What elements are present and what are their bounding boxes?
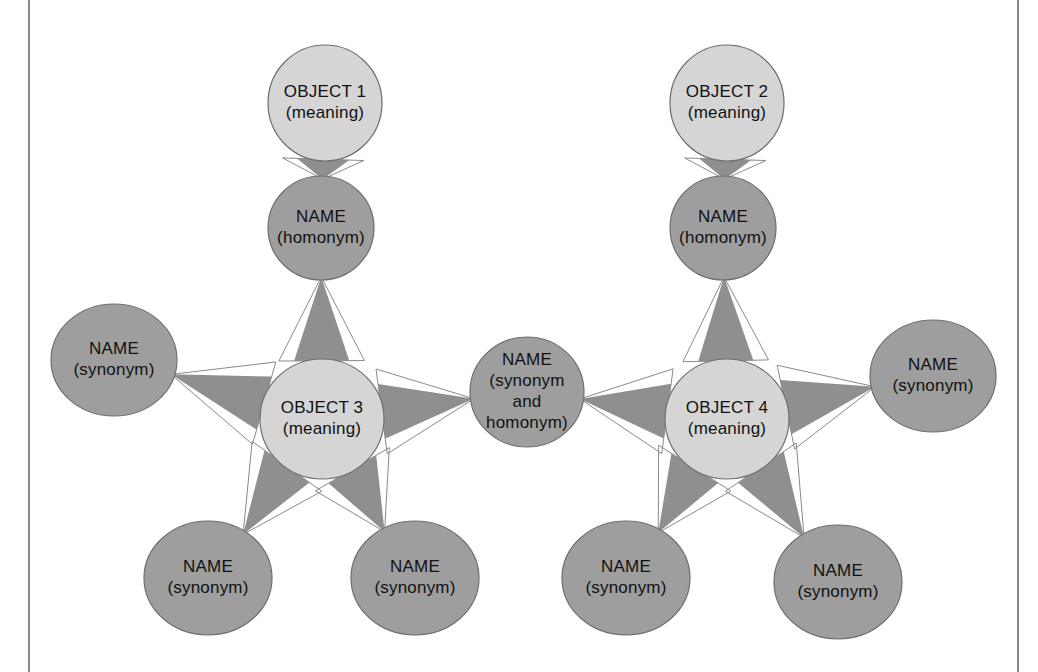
node-label-object3-line-0: OBJECT 3 xyxy=(281,398,364,417)
node-label-synonym_center-line-3: homonym) xyxy=(486,413,568,432)
node-layer: OBJECT 1(meaning)NAME(homonym)OBJECT 2(m… xyxy=(51,45,996,639)
node-object3[interactable]: OBJECT 3(meaning) xyxy=(260,359,384,479)
node-label-synonym_right_upper-line-1: (synonym) xyxy=(892,376,973,395)
node-synonym_right_lower_b[interactable]: NAME(synonym) xyxy=(774,525,902,639)
node-label-object4-line-1: (meaning) xyxy=(688,419,766,438)
node-object2[interactable]: OBJECT 2(meaning) xyxy=(670,45,784,161)
node-label-homonym2-line-0: NAME xyxy=(698,207,748,226)
node-synonym_left_upper[interactable]: NAME(synonym) xyxy=(51,304,177,416)
node-label-synonym_center-line-0: NAME xyxy=(502,350,552,369)
node-label-object3-line-1: (meaning) xyxy=(283,419,361,438)
node-synonym_left_lower_a[interactable]: NAME(synonym) xyxy=(144,521,272,635)
node-label-homonym1-line-0: NAME xyxy=(296,207,346,226)
node-label-homonym2-line-1: (homonym) xyxy=(679,228,767,247)
node-label-synonym_right_upper-line-0: NAME xyxy=(908,355,958,374)
node-label-object4-line-0: OBJECT 4 xyxy=(686,398,769,417)
node-label-homonym1-line-1: (homonym) xyxy=(277,228,365,247)
node-label-synonym_left_upper-line-0: NAME xyxy=(89,339,139,358)
node-label-synonym_left_lower_b-line-1: (synonym) xyxy=(374,578,455,597)
edge-e5 xyxy=(171,362,276,444)
edge-e2 xyxy=(279,277,365,361)
node-synonym_left_lower_b[interactable]: NAME(synonym) xyxy=(351,521,479,635)
node-synonym_right_upper[interactable]: NAME(synonym) xyxy=(870,320,996,432)
node-label-synonym_left_lower_a-line-0: NAME xyxy=(183,557,233,576)
node-homonym1[interactable]: NAME(homonym) xyxy=(268,176,374,280)
edge-wedge-e9 xyxy=(580,384,671,439)
node-label-synonym_center-line-2: and xyxy=(513,392,542,411)
edge-e10 xyxy=(777,365,875,449)
node-label-synonym_left_upper-line-1: (synonym) xyxy=(73,360,154,379)
edge-e4 xyxy=(683,277,769,362)
edge-e9 xyxy=(580,369,673,454)
node-label-synonym_center-line-1: (synonym xyxy=(489,371,564,390)
node-label-synonym_left_lower_a-line-1: (synonym) xyxy=(167,578,248,597)
node-object4[interactable]: OBJECT 4(meaning) xyxy=(665,359,789,479)
edge-wedge-e10 xyxy=(780,380,875,434)
edge-wedge-e2 xyxy=(294,277,349,361)
node-label-synonym_left_lower_b-line-0: NAME xyxy=(390,557,440,576)
edge-e6 xyxy=(376,369,474,454)
synonym-homonym-diagram: OBJECT 1(meaning)NAME(homonym)OBJECT 2(m… xyxy=(0,0,1038,672)
node-synonym_right_lower_a[interactable]: NAME(synonym) xyxy=(562,521,690,635)
node-object1[interactable]: OBJECT 1(meaning) xyxy=(268,45,382,161)
edge-wedge-e6 xyxy=(378,384,474,439)
node-label-synonym_right_lower_a-line-1: (synonym) xyxy=(585,578,666,597)
node-label-object1-line-1: (meaning) xyxy=(286,103,364,122)
node-label-object2-line-0: OBJECT 2 xyxy=(686,82,769,101)
edge-wedge-e5 xyxy=(171,374,272,429)
node-label-synonym_right_lower_a-line-0: NAME xyxy=(601,557,651,576)
node-label-synonym_right_lower_b-line-0: NAME xyxy=(813,561,863,580)
node-homonym2[interactable]: NAME(homonym) xyxy=(670,176,776,280)
node-label-object1-line-0: OBJECT 1 xyxy=(284,82,367,101)
node-label-object2-line-1: (meaning) xyxy=(688,103,766,122)
node-synonym_center[interactable]: NAME(synonymandhomonym) xyxy=(470,337,584,447)
diagram-page: OBJECT 1(meaning)NAME(homonym)OBJECT 2(m… xyxy=(0,0,1038,672)
edge-wedge-e4 xyxy=(698,277,753,362)
node-label-synonym_right_lower_b-line-1: (synonym) xyxy=(797,582,878,601)
